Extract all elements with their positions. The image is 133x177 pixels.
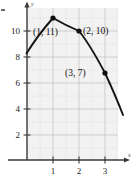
data-point-3-7[interactable] bbox=[102, 70, 107, 75]
y-tick-label-6: 6 bbox=[16, 78, 21, 88]
point-label-3-7: (3, 7) bbox=[65, 68, 86, 79]
point-label-2-10: (2, 10) bbox=[83, 26, 108, 37]
x-tick-label-1: 1 bbox=[51, 166, 56, 176]
point-label-1-11: (1, 11) bbox=[33, 27, 58, 38]
x-axis-label: x bbox=[127, 152, 131, 158]
parabola-chart: 10 8 6 4 2 1 2 3 y x (1, 11) (2, 10) (3,… bbox=[0, 0, 133, 177]
x-tick-label-3: 3 bbox=[103, 166, 108, 176]
data-point-2-10[interactable] bbox=[76, 28, 81, 33]
y-tick-label-8: 8 bbox=[16, 52, 21, 62]
y-tick-label-4: 4 bbox=[16, 104, 21, 114]
data-point-1-11[interactable] bbox=[50, 15, 55, 20]
figure-container: 10 8 6 4 2 1 2 3 y x (1, 11) (2, 10) (3,… bbox=[0, 0, 133, 177]
y-axis-label: y bbox=[30, 1, 34, 7]
y-tick-label-10: 10 bbox=[11, 26, 21, 36]
y-tick-label-2: 2 bbox=[16, 130, 21, 140]
x-tick-label-2: 2 bbox=[77, 166, 82, 176]
edge-artifact-mark bbox=[1, 9, 5, 11]
